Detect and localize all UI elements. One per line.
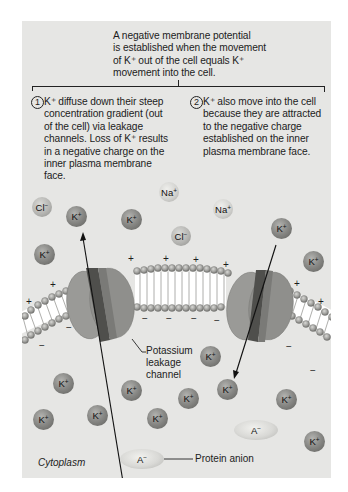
charge-negative: −	[66, 322, 72, 334]
sodium-ion: Na+	[159, 182, 179, 202]
protein-anion: A−	[234, 420, 278, 440]
charge-positive: +	[50, 279, 56, 291]
charge-positive: +	[163, 253, 169, 265]
potassium-ion: K+	[66, 206, 87, 227]
potassium-ion: K+	[276, 389, 297, 410]
charge-negative: −	[39, 340, 45, 352]
charge-positive: +	[26, 296, 32, 308]
chloride-ion: Cl−	[171, 226, 191, 246]
charge-negative: −	[214, 315, 220, 327]
potassium-ion: K+	[147, 408, 168, 429]
potassium-ion: K+	[304, 431, 325, 452]
charge-negative: −	[191, 313, 197, 325]
sodium-ion: Na+	[213, 199, 233, 219]
potassium-ion: K+	[200, 346, 221, 367]
potassium-ion: K+	[178, 388, 199, 409]
protein-anion-label: Protein anion	[195, 453, 254, 465]
potassium-ion: K+	[271, 218, 292, 239]
potassium-leakage-channel-right	[222, 269, 297, 342]
potassium-ion: K+	[217, 379, 238, 400]
potassium-leakage-channel-left	[62, 265, 138, 342]
potassium-ion: K+	[53, 373, 74, 394]
channel-label-line: channel	[146, 369, 193, 381]
charge-negative: −	[310, 365, 316, 377]
charge-negative: −	[142, 313, 148, 325]
charge-negative: −	[166, 313, 172, 325]
cytoplasm-label: Cytoplasm	[38, 457, 85, 469]
chloride-ion: Cl−	[32, 197, 52, 217]
charge-positive: +	[128, 253, 134, 265]
channel-label-line: leakage	[146, 357, 193, 369]
potassium-leakage-channel-label: Potassium leakage channel	[146, 345, 193, 381]
potassium-ion: K+	[33, 409, 54, 430]
charge-positive: +	[294, 278, 300, 290]
potassium-ion: K+	[303, 251, 324, 272]
potassium-ion: K+	[87, 405, 108, 426]
charge-positive: +	[193, 254, 199, 266]
charge-negative: −	[286, 341, 292, 353]
protein-anion: A−	[120, 449, 164, 469]
potassium-ion: K+	[121, 209, 142, 230]
charge-positive: +	[223, 259, 229, 271]
charge-positive: +	[318, 296, 324, 308]
potassium-ion: K+	[34, 244, 55, 265]
channel-label-line: Potassium	[146, 345, 193, 357]
potassium-ion: K+	[121, 380, 142, 401]
